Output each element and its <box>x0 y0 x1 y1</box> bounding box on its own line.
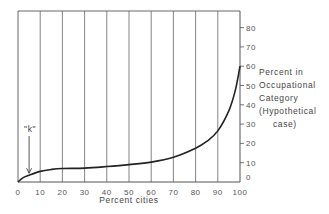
y-tick-label: 40 <box>246 101 256 110</box>
x-axis-title: Percent cities <box>99 195 158 205</box>
annotation-k: "k" <box>24 124 36 173</box>
y-axis-title-line: Percent in <box>259 66 316 79</box>
annotation-label: "k" <box>24 124 36 134</box>
y-tick-label: 30 <box>246 120 256 129</box>
x-tick-label: 70 <box>168 188 178 197</box>
y-axis-title: Percent in Occupational Category (Hypoth… <box>259 66 316 131</box>
y-tick-label: 80 <box>246 24 256 33</box>
y-tick-label: 10 <box>246 159 256 168</box>
y-tick-label: 50 <box>246 82 256 91</box>
y-tick-label: 60 <box>246 62 256 71</box>
y-axis-title-line: Category <box>259 92 316 105</box>
y-tick-label: 20 <box>246 139 256 148</box>
x-tick-label: 80 <box>191 188 201 197</box>
y-tick-label: 0 <box>246 173 251 182</box>
x-tick-label: 30 <box>80 188 90 197</box>
y-axis: 01020304050607080 <box>240 24 256 182</box>
y-axis-title-line: (Hypothetical <box>259 105 316 118</box>
x-tick-label: 20 <box>57 188 67 197</box>
x-tick-label: 90 <box>213 188 223 197</box>
x-tick-label: 10 <box>35 188 45 197</box>
y-tick-label: 70 <box>246 43 256 52</box>
y-axis-title-line: case) <box>259 118 316 131</box>
y-axis-title-line: Occupational <box>259 79 316 92</box>
x-tick-label: 100 <box>233 188 248 197</box>
grid-lines <box>40 11 218 182</box>
x-tick-label: 0 <box>16 188 21 197</box>
